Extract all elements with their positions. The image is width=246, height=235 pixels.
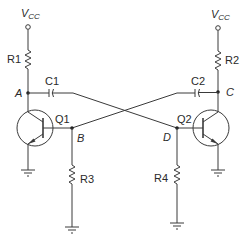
vcc-label-left: VCC [21,8,40,20]
q2-label: Q2 [177,114,192,125]
r2-resistor [215,31,221,93]
r3-label: R3 [80,174,94,185]
node-c-label: C [226,87,234,98]
c1-label: C1 [45,76,59,87]
r1-resistor [25,30,31,94]
vcc-terminal-left [26,25,31,30]
c2-label: C2 [191,76,205,87]
ground-q1-emitter [21,170,35,176]
node-b-label: B [77,133,84,144]
node-d-label: D [163,132,171,143]
vcc-terminal-right [216,26,221,31]
schematic-drawing [0,0,246,235]
r4-resistor [174,128,180,223]
ground-r3 [65,227,79,233]
q1-transistor [17,93,72,170]
r4-label: R4 [154,173,168,184]
r3-resistor [69,128,75,227]
r1-label: R1 [7,54,21,65]
circuit-diagram: VCC VCC R1 R2 R3 R4 C1 C2 Q1 Q2 A B C D [0,0,246,235]
q2-transistor [177,92,229,170]
q1-label: Q1 [55,114,70,125]
vcc-label-right: VCC [211,9,230,21]
ground-q2-emitter [211,170,225,176]
r2-label: R2 [225,55,239,66]
ground-r4 [170,223,184,229]
c1-capacitor [28,89,73,97]
node-a-label: A [15,88,22,99]
c2-capacitor [177,89,218,97]
